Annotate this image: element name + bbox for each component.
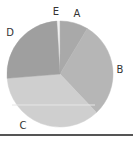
slice-label-e: E	[53, 7, 59, 17]
slice-label-b: B	[117, 65, 124, 75]
slice-label-a: A	[74, 9, 81, 19]
slice-label-c: C	[20, 121, 27, 131]
pie-slice-d	[7, 21, 60, 78]
slice-label-d: D	[6, 28, 14, 38]
pie-slices	[7, 21, 113, 127]
bottom-divider	[0, 134, 133, 136]
